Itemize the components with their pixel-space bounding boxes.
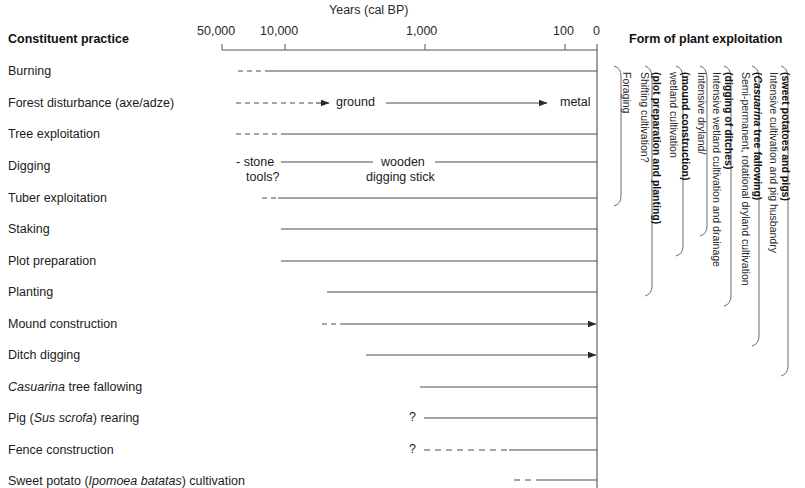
note-tools: tools? xyxy=(246,170,279,184)
casuarina-genus: Casuarina xyxy=(8,380,65,394)
row-label-staking: Staking xyxy=(8,222,50,236)
row-label-digging: Digging xyxy=(8,159,50,173)
row-label-planting: Planting xyxy=(8,285,53,299)
group-label-intensive-dryland: Intensive dryland/ xyxy=(697,72,708,154)
bracket-foraging xyxy=(614,66,621,206)
casuarina-rest: tree fallowing xyxy=(65,380,142,394)
tick-label-1000: 1,000 xyxy=(406,24,437,38)
tick-label-100: 100 xyxy=(553,24,574,38)
row-label-forest-disturbance: Forest disturbance (axe/adze) xyxy=(8,96,174,110)
row-label-mound-construction: Mound construction xyxy=(8,317,117,331)
note-stone: - stone xyxy=(236,155,274,169)
row-label-ditch-digging: Ditch digging xyxy=(8,348,80,362)
tick-label-10000: 10,000 xyxy=(260,24,298,38)
note-question-pig: ? xyxy=(409,410,416,424)
sweet-potato-pre: Sweet potato ( xyxy=(8,474,89,488)
row-label-pig-rearing: Pig (Sus scrofa) rearing xyxy=(8,411,139,425)
group-label-shifting-cultivation-bold: (plot preparation and planting) xyxy=(652,72,663,224)
note-question-fence: ? xyxy=(409,442,416,456)
row-label-sweet-potato-cultivation: Sweet potato (Ipomoea batatas) cultivati… xyxy=(8,474,245,488)
pig-species: Sus scrofa xyxy=(34,411,93,425)
group-label-intensive-wetland-bold: (digging of ditches) xyxy=(724,72,735,169)
group-label-foraging: Foraging xyxy=(622,72,633,113)
semi-permanent-rest: tree fallowing) xyxy=(752,126,764,200)
axis-title: Years (cal BP) xyxy=(329,3,408,17)
right-column-header: Form of plant exploitation xyxy=(629,32,782,46)
note-metal: metal xyxy=(560,95,591,109)
group-label-intensive-wetland-plain: Intensive wetland cultivation and draina… xyxy=(712,72,723,267)
tick-label-50000: 50,000 xyxy=(197,24,235,38)
group-label-intensive-pig-bold: (sweet potatoes and pigs) xyxy=(781,72,792,201)
group-label-wetland-cultivation-plain: wetland cultivation xyxy=(669,72,680,158)
note-wooden: wooden xyxy=(381,155,425,169)
semi-permanent-genus: Casuarina xyxy=(752,76,764,127)
row-label-tuber-exploitation: Tuber exploitation xyxy=(8,191,107,205)
row-label-casuarina-tree-fallowing: Casuarina tree fallowing xyxy=(8,380,142,394)
row-label-tree-exploitation: Tree exploitation xyxy=(8,127,100,141)
row-label-burning: Burning xyxy=(8,64,51,78)
group-label-wetland-cultivation-bold: (mound construction) xyxy=(681,72,692,181)
sweet-potato-species: Ipomoea batatas xyxy=(89,474,182,488)
tick-label-0: 0 xyxy=(593,24,600,38)
group-label-semi-permanent-plain: Semi-permanent, rotational dryland culti… xyxy=(741,72,752,286)
pig-pre: Pig ( xyxy=(8,411,34,425)
row-label-fence-construction: Fence construction xyxy=(8,443,114,457)
pig-post: ) rearing xyxy=(93,411,140,425)
group-label-shifting-cultivation-plain: Shifting cultivation? xyxy=(640,72,651,162)
left-column-header: Constituent practice xyxy=(8,32,129,46)
note-ground: ground xyxy=(336,95,375,109)
group-label-intensive-pig-plain: Intensive cultivation and pig husbandry xyxy=(769,72,780,253)
group-label-semi-permanent-bold: (Casuarina tree fallowing) xyxy=(753,72,764,200)
note-digging-stick: digging stick xyxy=(366,170,435,184)
sweet-potato-post: ) cultivation xyxy=(182,474,245,488)
row-label-plot-preparation: Plot preparation xyxy=(8,254,96,268)
